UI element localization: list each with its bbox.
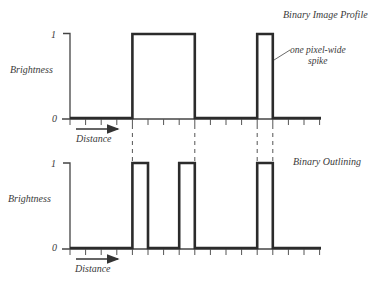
bottom-y-tick-high: 1 <box>51 158 56 169</box>
top-panel: Binary Image Profile 1 0 Brightness <box>10 9 368 144</box>
top-y-tick-high: 1 <box>51 29 56 40</box>
top-x-ticks <box>70 119 320 125</box>
spike-leader-line <box>274 50 290 60</box>
bottom-signal-trace <box>70 163 321 248</box>
binary-profile-diagram: Binary Image Profile 1 0 Brightness <box>0 0 368 284</box>
bottom-x-axis-label: Distance <box>74 263 111 274</box>
top-y-axis-label: Brightness <box>10 64 53 75</box>
top-x-axis-label: Distance <box>75 133 112 144</box>
top-panel-title: Binary Image Profile <box>283 9 368 20</box>
top-y-tick-low: 0 <box>52 113 57 124</box>
bottom-y-axis-label: Brightness <box>8 193 51 204</box>
top-y-axis <box>63 34 70 120</box>
top-signal-trace <box>70 34 321 118</box>
bottom-y-axis <box>63 163 70 249</box>
bottom-y-tick-low: 0 <box>52 242 57 253</box>
spike-annotation-line2: spike <box>308 56 328 66</box>
bottom-panel-title: Binary Outlining <box>293 156 361 167</box>
bottom-panel: Binary Outlining 1 0 Brightness <box>8 156 361 274</box>
spike-annotation-line1: one pixel-wide <box>290 45 346 55</box>
bottom-x-ticks <box>70 249 320 255</box>
alignment-guides <box>132 125 272 163</box>
